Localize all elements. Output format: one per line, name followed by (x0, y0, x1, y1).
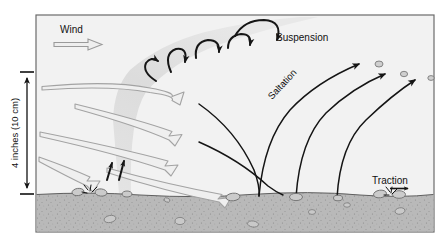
figure-root: 4 inches (10 cm) Wind Suspension (0, 0, 446, 250)
wind-transport-diagram: 4 inches (10 cm) Wind Suspension (0, 0, 446, 250)
traction-label: Traction (372, 175, 408, 186)
wind-label: Wind (60, 24, 83, 35)
scale-bar: 4 inches (10 cm) (9, 72, 34, 194)
scale-bar-label: 4 inches (10 cm) (9, 98, 20, 168)
bed-grain-plume-base (122, 191, 132, 197)
suspension-label: Suspension (276, 32, 328, 43)
